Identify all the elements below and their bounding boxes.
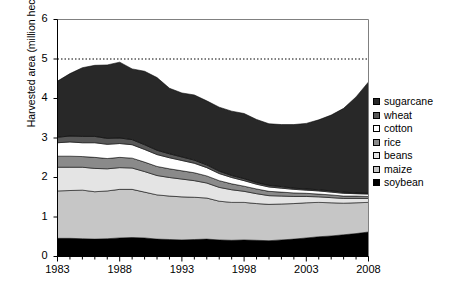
legend-swatch-icon (373, 125, 380, 132)
legend-item-rice[interactable]: rice (373, 137, 433, 148)
legend-swatch-icon (373, 166, 380, 173)
legend-swatch-icon (373, 179, 380, 186)
legend-swatch-icon (373, 152, 380, 159)
legend-item-wheat[interactable]: wheat (373, 110, 433, 121)
legend-item-soybean[interactable]: soybean (373, 177, 433, 188)
legend-item-label: rice (384, 137, 401, 148)
legend-item-beans[interactable]: beans (373, 150, 433, 161)
chart-legend: sugarcanewheatcottonricebeansmaizesoybea… (373, 96, 433, 188)
chart-figure: Harvested area (million hectares) 012345… (0, 0, 450, 290)
legend-item-cotton[interactable]: cotton (373, 123, 433, 134)
legend-item-label: wheat (384, 110, 412, 121)
legend-swatch-icon (373, 98, 380, 105)
legend-item-label: maize (384, 164, 412, 175)
legend-swatch-icon (373, 139, 380, 146)
legend-swatch-icon (373, 112, 380, 119)
legend-item-label: beans (384, 150, 413, 161)
legend-item-label: cotton (384, 123, 413, 134)
legend-item-label: sugarcane (384, 96, 433, 107)
legend-item-maize[interactable]: maize (373, 164, 433, 175)
legend-item-sugarcane[interactable]: sugarcane (373, 96, 433, 107)
legend-item-label: soybean (384, 177, 424, 188)
